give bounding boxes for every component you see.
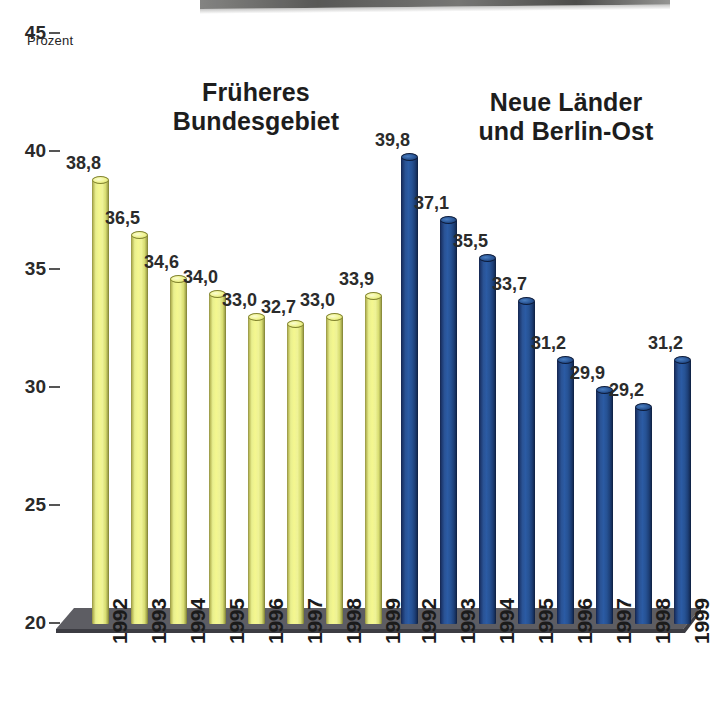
bar-body — [635, 407, 652, 624]
bar-body — [326, 317, 343, 624]
bar-east-1999[interactable] — [674, 360, 691, 624]
bar-west-1996[interactable] — [248, 317, 265, 624]
bar-body — [596, 390, 613, 624]
group-title-east-line2: und Berlin-Ost — [432, 117, 700, 146]
y-axis-tick-35: 35 — [2, 258, 46, 280]
value-label-west-1994: 34,6 — [144, 252, 179, 273]
x-axis-year-label-west-1996: 1996 — [264, 598, 288, 644]
value-label-east-1994: 35,5 — [453, 231, 488, 252]
x-axis-year-label-west-1993: 1993 — [147, 598, 171, 644]
value-label-west-1998: 33,0 — [300, 290, 335, 311]
bar-body — [170, 279, 187, 624]
group-title-west: Früheres Bundesgebiet — [122, 78, 390, 135]
x-axis-year-label-east-1997: 1997 — [612, 598, 636, 644]
bar-top-ellipse — [518, 297, 535, 305]
bar-east-1998[interactable] — [635, 407, 652, 624]
y-axis-tick-label: 35 — [25, 258, 46, 279]
value-label-east-1993: 37,1 — [414, 193, 449, 214]
y-axis-tick-label: 20 — [25, 612, 46, 633]
bar-body — [557, 360, 574, 624]
bar-east-1997[interactable] — [596, 390, 613, 624]
value-label-west-1995: 34,0 — [183, 267, 218, 288]
bar-body — [287, 324, 304, 624]
value-label-east-1999: 31,2 — [648, 333, 683, 354]
bar-west-1995[interactable] — [209, 294, 226, 624]
bar-top-ellipse — [365, 292, 382, 300]
x-axis-year-label-east-1993: 1993 — [456, 598, 480, 644]
bar-east-1994[interactable] — [479, 258, 496, 624]
value-label-west-1996: 33,0 — [222, 290, 257, 311]
bar-east-1992[interactable] — [401, 157, 418, 624]
value-label-east-1995: 33,7 — [492, 274, 527, 295]
value-label-east-1998: 29,2 — [609, 380, 644, 401]
bar-body — [365, 296, 382, 624]
x-axis-year-label-west-1998: 1998 — [342, 598, 366, 644]
y-axis-tick-label: 25 — [25, 494, 46, 515]
group-title-east-line1: Neue Länder — [432, 88, 700, 117]
bar-top-ellipse — [674, 356, 691, 364]
bar-body — [248, 317, 265, 624]
x-axis-year-label-west-1992: 1992 — [108, 598, 132, 644]
x-axis-year-label-east-1995: 1995 — [534, 598, 558, 644]
value-label-west-1997: 32,7 — [261, 297, 296, 318]
x-axis-year-label-east-1992: 1992 — [417, 598, 441, 644]
bar-top-ellipse — [635, 403, 652, 411]
y-axis-tick-mark — [49, 150, 60, 152]
y-axis-tick-mark — [49, 386, 60, 388]
x-axis-year-label-west-1995: 1995 — [225, 598, 249, 644]
bar-west-1998[interactable] — [326, 317, 343, 624]
y-axis-tick-45: 45 — [2, 22, 46, 44]
value-label-west-1993: 36,5 — [105, 208, 140, 229]
y-axis-tick-label: 45 — [25, 22, 46, 43]
bar-west-1992[interactable] — [92, 180, 109, 624]
y-axis-tick-mark — [49, 32, 60, 34]
bar-east-1996[interactable] — [557, 360, 574, 624]
x-axis-year-label-east-1996: 1996 — [573, 598, 597, 644]
value-label-west-1999: 33,9 — [339, 269, 374, 290]
bar-body — [131, 235, 148, 624]
y-axis-tick-label: 40 — [25, 140, 46, 161]
group-title-west-line1: Früheres — [122, 78, 390, 107]
bar-body — [209, 294, 226, 624]
value-label-east-1997: 29,9 — [570, 363, 605, 384]
y-axis-tick-mark — [49, 268, 60, 270]
bar-top-ellipse — [131, 231, 148, 239]
bar-body — [440, 220, 457, 624]
x-axis-year-label-west-1997: 1997 — [303, 598, 327, 644]
bar-west-1999[interactable] — [365, 296, 382, 624]
bar-body — [92, 180, 109, 624]
x-axis-year-label-east-1994: 1994 — [495, 598, 519, 644]
value-label-east-1992: 39,8 — [375, 130, 410, 151]
y-axis-tick-20: 20 — [2, 612, 46, 634]
y-axis-tick-30: 30 — [2, 376, 46, 398]
bar-top-ellipse — [401, 153, 418, 161]
bar-body — [479, 258, 496, 624]
x-axis-year-label-east-1998: 1998 — [651, 598, 675, 644]
y-axis-tick-mark — [49, 504, 60, 506]
group-title-west-line2: Bundesgebiet — [122, 107, 390, 136]
bar-west-1993[interactable] — [131, 235, 148, 624]
bar-west-1994[interactable] — [170, 279, 187, 624]
group-title-east: Neue Länder und Berlin-Ost — [432, 88, 700, 145]
y-axis-tick-label: 30 — [25, 376, 46, 397]
y-axis-tick-40: 40 — [2, 140, 46, 162]
value-label-west-1992: 38,8 — [66, 153, 101, 174]
x-axis-year-label-east-1999: 1999 — [690, 598, 714, 644]
bar-body — [401, 157, 418, 624]
x-axis-year-label-west-1994: 1994 — [186, 598, 210, 644]
bar-body — [674, 360, 691, 624]
bar-west-1997[interactable] — [287, 324, 304, 624]
value-label-east-1996: 31,2 — [531, 333, 566, 354]
y-axis-tick-25: 25 — [2, 494, 46, 516]
bar-east-1993[interactable] — [440, 220, 457, 624]
